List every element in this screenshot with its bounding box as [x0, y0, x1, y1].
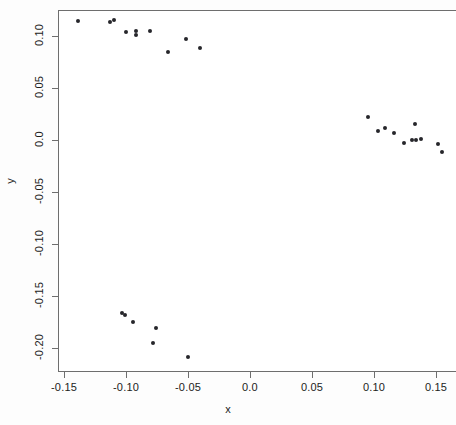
- x-tick-label: -0.10: [113, 381, 139, 393]
- x-tick-mark: [436, 372, 437, 378]
- x-tick-mark: [64, 372, 65, 378]
- data-point: [134, 33, 138, 37]
- y-tick-label-text: -0.15: [33, 278, 45, 312]
- y-tick-label: -0.05: [22, 185, 56, 197]
- y-tick-label: -0.20: [22, 341, 56, 353]
- data-point: [166, 50, 170, 54]
- x-tick-label: 0.10: [363, 381, 385, 393]
- y-tick-label: 0.10: [22, 29, 56, 41]
- x-axis-title: x: [0, 403, 456, 415]
- data-point: [376, 129, 380, 133]
- y-tick-label-text: 0.05: [33, 70, 45, 104]
- x-tick-mark: [188, 372, 189, 378]
- data-point: [123, 313, 127, 317]
- data-point: [383, 126, 387, 130]
- x-tick-mark: [126, 372, 127, 378]
- data-point: [154, 326, 158, 330]
- scatter-plot-figure: -0.15-0.10-0.050.00.050.100.15 0.100.050…: [0, 0, 456, 425]
- data-point: [402, 141, 406, 145]
- x-tick-label: 0.05: [301, 381, 323, 393]
- x-tick-label: 0.15: [425, 381, 447, 393]
- x-tick-label: 0.0: [242, 381, 258, 393]
- plot-area-frame: [58, 10, 456, 372]
- y-tick-label-text: 0.0: [33, 122, 45, 156]
- y-tick-label: 0.05: [22, 81, 56, 93]
- x-tick-label: -0.05: [175, 381, 201, 393]
- y-axis-title-text: y: [4, 173, 16, 189]
- data-point: [148, 29, 152, 33]
- y-tick-label-text: 0.10: [33, 18, 45, 52]
- x-tick-mark: [312, 372, 313, 378]
- y-axis-title: y: [2, 175, 18, 187]
- y-tick-label-text: -0.10: [33, 226, 45, 260]
- y-tick-label-text: -0.20: [33, 330, 45, 364]
- x-tick-mark: [374, 372, 375, 378]
- data-point: [392, 131, 396, 135]
- y-tick-label-text: -0.05: [33, 174, 45, 208]
- data-point: [184, 37, 188, 41]
- x-tick-label: -0.15: [51, 381, 77, 393]
- data-point: [124, 30, 128, 34]
- y-tick-label: -0.15: [22, 289, 56, 301]
- data-point: [366, 115, 370, 119]
- y-tick-label: -0.10: [22, 237, 56, 249]
- x-tick-mark: [250, 372, 251, 378]
- y-tick-label: 0.0: [22, 133, 56, 145]
